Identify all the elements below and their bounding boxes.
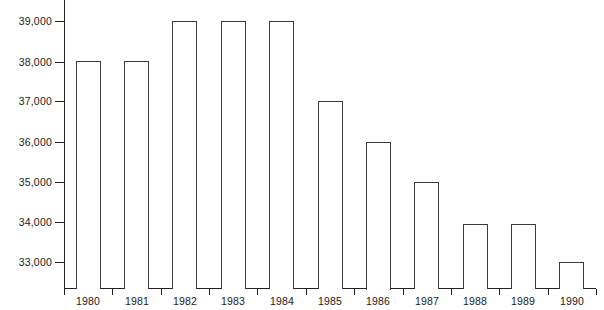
- y-axis-label-39000: 39,000: [0, 16, 52, 27]
- y-axis-tick-38000: [55, 62, 65, 63]
- x-axis-tick-11: [596, 289, 597, 295]
- x-axis-label-1985: 1985: [307, 296, 353, 307]
- bar-1989: [511, 224, 536, 289]
- x-axis-tick-0: [64, 289, 65, 295]
- bar-1987: [414, 182, 439, 289]
- x-axis-tick-9: [499, 289, 500, 295]
- y-axis-label-33000: 33,000: [0, 257, 52, 268]
- y-axis-tick-39000: [55, 21, 65, 22]
- x-axis-label-1990: 1990: [549, 296, 595, 307]
- x-axis-label-1987: 1987: [404, 296, 450, 307]
- x-axis-tick-6: [354, 289, 355, 295]
- bar-1980: [76, 61, 101, 289]
- x-axis-tick-4: [257, 289, 258, 295]
- x-axis-label-1986: 1986: [355, 296, 401, 307]
- x-axis-label-1988: 1988: [452, 296, 498, 307]
- bar-1981: [124, 61, 149, 289]
- y-axis-tick-33000: [55, 262, 65, 263]
- x-axis-tick-5: [306, 289, 307, 295]
- x-axis-label-1984: 1984: [259, 296, 305, 307]
- y-axis-tick-36000: [55, 142, 65, 143]
- bar-1985: [318, 101, 343, 289]
- x-axis-label-1983: 1983: [210, 296, 256, 307]
- y-axis-tick-35000: [55, 182, 65, 183]
- x-axis-label-1982: 1982: [162, 296, 208, 307]
- x-axis-tick-2: [161, 289, 162, 295]
- bar-1988: [463, 224, 488, 289]
- y-axis-label-35000: 35,000: [0, 177, 52, 188]
- x-axis-tick-7: [403, 289, 404, 295]
- y-axis-label-37000: 37,000: [0, 96, 52, 107]
- bar-1990: [559, 262, 584, 289]
- y-axis-line: [64, 0, 65, 289]
- bar-1984: [269, 21, 294, 289]
- x-axis-tick-1: [112, 289, 113, 295]
- x-axis-label-1989: 1989: [500, 296, 546, 307]
- y-axis-label-36000: 36,000: [0, 137, 52, 148]
- x-axis-label-1980: 1980: [65, 296, 111, 307]
- y-axis-tick-37000: [55, 101, 65, 102]
- plot-area: 39,000 38,000 37,000 36,000 35,000 34,00…: [0, 0, 604, 310]
- x-axis-tick-8: [451, 289, 452, 295]
- y-axis-label-38000: 38,000: [0, 57, 52, 68]
- x-axis-tick-3: [209, 289, 210, 295]
- bar-1982: [172, 21, 197, 289]
- y-axis-tick-34000: [55, 222, 65, 223]
- x-axis-tick-10: [548, 289, 549, 295]
- bar-1983: [221, 21, 246, 289]
- bar-1986: [366, 142, 391, 290]
- y-axis-label-34000: 34,000: [0, 217, 52, 228]
- bar-chart: 39,000 38,000 37,000 36,000 35,000 34,00…: [0, 0, 604, 310]
- x-axis-label-1981: 1981: [114, 296, 160, 307]
